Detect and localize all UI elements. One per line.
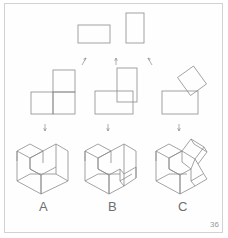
pictorial-b	[85, 144, 136, 194]
top-view-rectangle-a	[78, 25, 110, 43]
arrow-up-right-icon	[148, 58, 152, 65]
page-number: 36	[210, 220, 219, 229]
pictorial-a	[17, 144, 68, 194]
arrow-down-icon-b	[107, 124, 110, 131]
figure-label-c: C	[178, 199, 188, 214]
arrow-up-icon	[115, 58, 118, 65]
pictorial-c	[156, 139, 207, 194]
figure-label-b: B	[108, 199, 117, 214]
top-view-rectangle-b	[126, 13, 144, 43]
front-view-c	[162, 66, 207, 114]
arrow-up-left-icon	[82, 58, 86, 65]
arrow-down-icon-c	[178, 124, 181, 131]
front-view-b	[95, 68, 137, 114]
front-view-a	[31, 70, 75, 114]
figure-label-a: A	[39, 199, 48, 214]
exercise-page: A B C 36	[0, 0, 228, 238]
arrow-down-icon-a	[44, 124, 47, 131]
